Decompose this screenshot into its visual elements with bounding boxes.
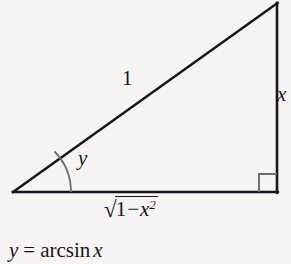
right-angle-marker [259, 174, 277, 192]
opposite-side-label: x [277, 84, 286, 105]
radicand-one: 1 [116, 197, 127, 221]
angle-label: y [78, 148, 87, 169]
radicand-group: 1−x2 [115, 196, 158, 220]
equation-function-name: arcsin [40, 238, 93, 262]
equation-argument: x [93, 238, 102, 262]
hypotenuse-label: 1 [122, 68, 133, 89]
radical-expression: √1−x2 [104, 196, 158, 221]
adjacent-side-label: √1−x2 [104, 196, 158, 221]
equation-caption: y=arcsinx [9, 240, 103, 261]
equation-lhs: y [9, 238, 18, 262]
equation-equals-sign: = [18, 238, 40, 262]
radicand-variable: x [140, 197, 149, 221]
radicand-exponent: 2 [149, 197, 156, 212]
triangle-drawing [0, 0, 291, 264]
figure-canvas: 1 x y √1−x2 y=arcsinx [0, 0, 291, 264]
radicand-minus-operator: − [126, 197, 140, 221]
triangle-hypotenuse-line [13, 3, 278, 192]
